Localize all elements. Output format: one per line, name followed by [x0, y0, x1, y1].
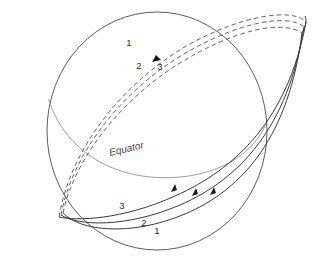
sphere-outline — [47, 12, 267, 250]
lower-orbit-2-label: 2 — [141, 217, 146, 228]
direction-arrow-orbit-2-icon — [192, 188, 198, 196]
orbit-3-far-arc — [59, 15, 306, 217]
lower-orbit-1-label: 1 — [154, 225, 159, 236]
upper-orbit-2-label: 2 — [136, 60, 141, 71]
upper-orbit-1-label: 1 — [126, 37, 131, 48]
lower-orbit-3-label: 3 — [119, 200, 124, 211]
orbit-2-near-arc — [61, 27, 304, 223]
upper-orbit-3-label: 3 — [157, 61, 162, 72]
direction-arrow-orbit-3-icon — [171, 184, 177, 192]
equator-line — [49, 99, 267, 178]
orbit-3-near-arc — [59, 22, 306, 219]
equator-label: Equator — [108, 139, 145, 158]
orbit-inclination-figure: Equator 1 2 3 3 2 1 — [0, 0, 314, 262]
orbit-2-far-arc — [61, 21, 304, 215]
diagram-canvas: Equator 1 2 3 3 2 1 — [0, 0, 314, 262]
